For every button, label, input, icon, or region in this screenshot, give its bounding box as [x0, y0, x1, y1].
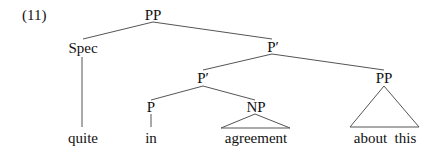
edge-pp-pbar	[153, 22, 272, 39]
node-pp-root: PP	[145, 7, 162, 23]
edge-pbar-np	[203, 86, 255, 100]
node-spec: Spec	[68, 40, 97, 56]
edge-pbar-pbar	[203, 54, 272, 70]
node-pp-right: PP	[376, 70, 393, 86]
pp-triangle	[350, 86, 419, 127]
leaf-quite: quite	[68, 130, 98, 146]
edge-pbar-pp	[272, 54, 384, 70]
edge-pbar-p	[151, 86, 203, 100]
edge-pp-spec	[83, 22, 153, 39]
np-triangle	[221, 114, 290, 128]
leaf-in: in	[145, 130, 157, 146]
node-pbar-upper: P′	[267, 39, 279, 55]
leaf-agreement: agreement	[225, 130, 287, 146]
leaf-about-this: about this	[354, 130, 417, 146]
node-np: NP	[246, 99, 265, 115]
node-pbar-inner: P′	[197, 70, 209, 86]
node-p: P	[147, 99, 155, 115]
